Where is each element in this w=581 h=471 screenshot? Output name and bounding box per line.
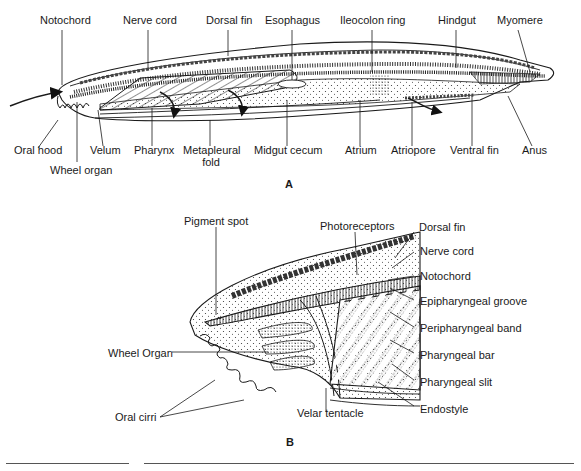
label-wheel-organ-b: Wheel Organ bbox=[108, 347, 173, 359]
panel-b-letter: B bbox=[286, 436, 294, 448]
label-endostyle: Endostyle bbox=[420, 403, 468, 415]
label-oral-cirri: Oral cirri bbox=[115, 411, 157, 423]
panel-a-letter: A bbox=[285, 178, 293, 190]
label-metapleural-fold: Metapleural fold bbox=[183, 144, 239, 168]
panel-b-drawing bbox=[190, 232, 420, 406]
bottom-rule-right bbox=[144, 463, 574, 464]
label-pigment-spot: Pigment spot bbox=[184, 215, 248, 227]
label-epipharyngeal-groove: Epipharyngeal groove bbox=[420, 295, 527, 307]
label-ileocolon-ring: Ileocolon ring bbox=[340, 14, 405, 26]
label-nerve-cord-b: Nerve cord bbox=[420, 245, 474, 257]
label-atriopore: Atriopore bbox=[391, 144, 436, 156]
label-dorsal-fin: Dorsal fin bbox=[206, 14, 252, 26]
label-ventral-fin: Ventral fin bbox=[450, 144, 499, 156]
label-hindgut: Hindgut bbox=[438, 14, 476, 26]
label-anus: Anus bbox=[522, 144, 547, 156]
label-wheel-organ: Wheel organ bbox=[50, 164, 112, 176]
label-pharynx: Pharynx bbox=[134, 144, 174, 156]
bottom-rule-left bbox=[6, 463, 129, 464]
label-nerve-cord: Nerve cord bbox=[123, 14, 177, 26]
label-peripharyngeal-band: Peripharyngeal band bbox=[420, 322, 522, 334]
label-dorsal-fin-b: Dorsal fin bbox=[419, 221, 465, 233]
label-midgut-cecum: Midgut cecum bbox=[254, 144, 322, 156]
label-pharyngeal-bar: Pharyngeal bar bbox=[420, 349, 495, 361]
label-velum: Velum bbox=[90, 144, 121, 156]
label-velar-tentacle: Velar tentacle bbox=[297, 407, 364, 419]
label-esophagus: Esophagus bbox=[265, 14, 320, 26]
label-pharyngeal-slit: Pharyngeal slit bbox=[420, 376, 492, 388]
label-atrium: Atrium bbox=[345, 144, 377, 156]
label-notochord-b: Notochord bbox=[420, 270, 471, 282]
label-oral-hood: Oral hood bbox=[14, 144, 62, 156]
label-myomere: Myomere bbox=[497, 14, 543, 26]
amphioxus-diagram bbox=[0, 0, 581, 471]
label-notochord: Notochord bbox=[40, 14, 91, 26]
label-photoreceptors: Photoreceptors bbox=[320, 220, 395, 232]
